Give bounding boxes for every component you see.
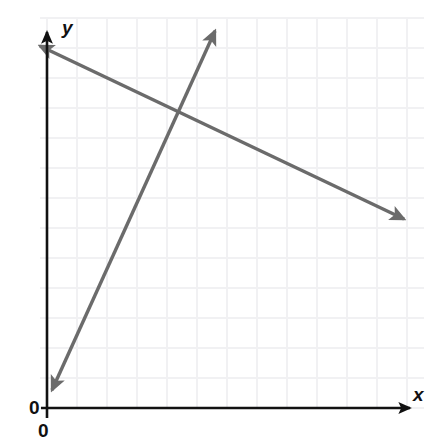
origin-label-left: 0 (29, 398, 40, 417)
origin-label-below: 0 (38, 421, 49, 440)
y-axis-label: y (62, 18, 73, 37)
coordinate-plane-svg (0, 0, 434, 446)
x-axis-label: x (413, 385, 424, 404)
grid-lines (40, 18, 424, 408)
graph-figure: y x 0 0 (0, 0, 434, 446)
descending-line (40, 46, 404, 219)
